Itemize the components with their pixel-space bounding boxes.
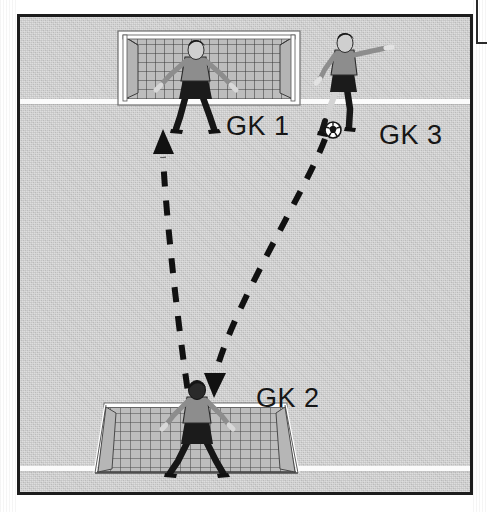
diagram-page: GK 1 GK 3 GK 2 <box>0 0 487 512</box>
label-gk3: GK 3 <box>379 122 443 149</box>
page-margin-left <box>0 0 17 512</box>
diagram-artwork <box>20 17 470 492</box>
arrow-return <box>153 129 192 417</box>
soccer-ball <box>325 122 341 138</box>
scan-rule-horizontal <box>476 42 487 44</box>
page-margin-right <box>473 0 487 512</box>
arrow-serve <box>204 139 325 398</box>
diagram-frame: GK 1 GK 3 GK 2 <box>17 14 473 495</box>
label-gk1: GK 1 <box>226 113 290 140</box>
scan-rule-vertical <box>476 0 478 44</box>
label-gk2: GK 2 <box>256 385 320 412</box>
